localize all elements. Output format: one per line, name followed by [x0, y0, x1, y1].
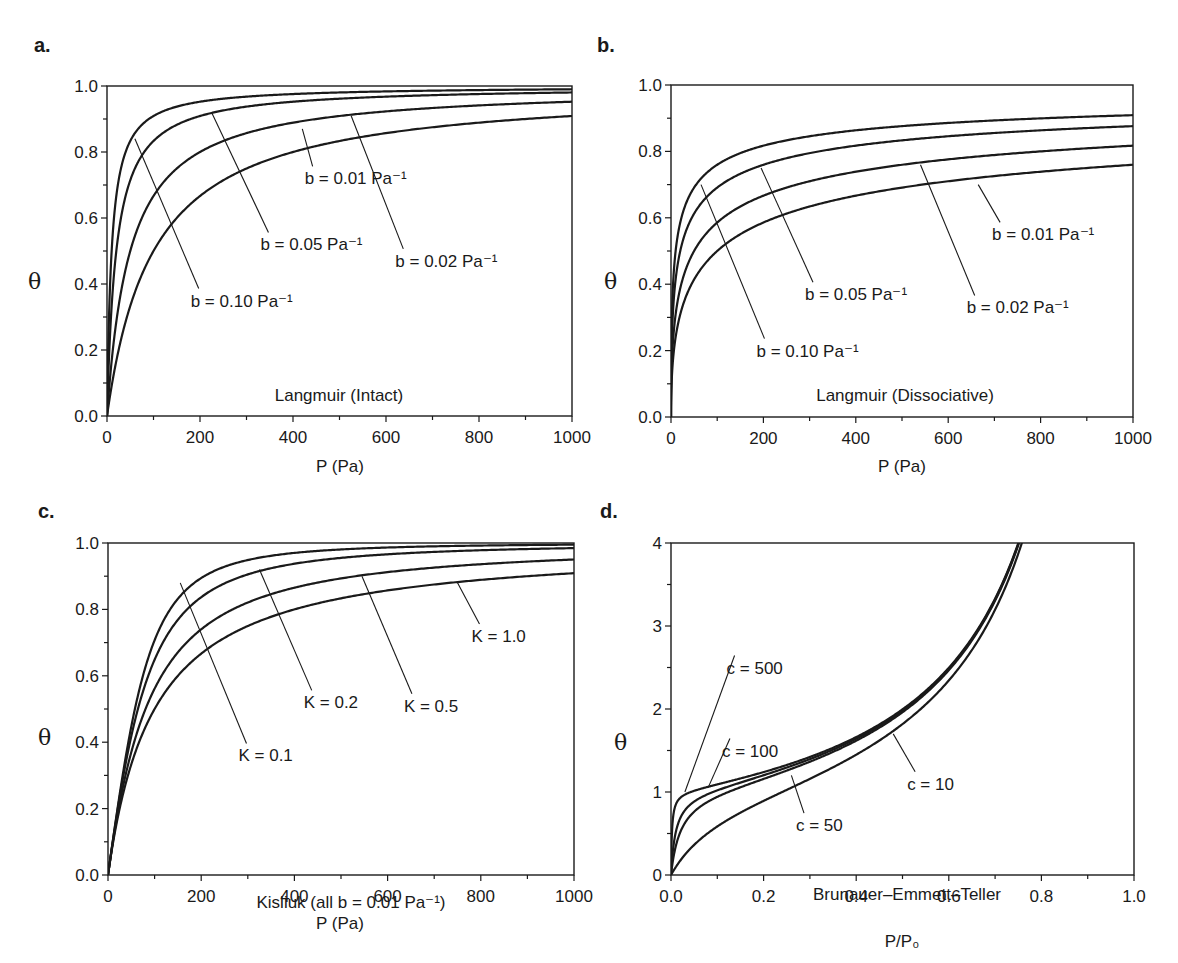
y-tick-label: 0.0 — [75, 866, 99, 885]
series-label: c = 50 — [796, 816, 843, 835]
series-label: K = 0.2 — [304, 693, 358, 712]
leader-line — [791, 775, 804, 813]
series-label: b = 0.01 Pa⁻¹ — [305, 169, 407, 188]
leader-line — [362, 576, 412, 693]
series-label: K = 0.5 — [404, 697, 458, 716]
series-label: b = 0.10 Pa⁻¹ — [756, 342, 858, 361]
y-tick-label: 0.0 — [638, 408, 662, 427]
leader-line — [893, 734, 915, 772]
panel-letter-a: a. — [34, 34, 51, 56]
y-tick-label: 0.4 — [74, 275, 98, 294]
plot-frame — [671, 85, 1133, 417]
y-tick-label: 0.2 — [74, 341, 98, 360]
x-axis-title-c: P (Pa) — [316, 914, 364, 933]
series-label: b = 0.10 Pa⁻¹ — [191, 292, 293, 311]
series-label: b = 0.02 Pa⁻¹ — [967, 298, 1069, 317]
series-line-b-0-01-pa- — [107, 116, 572, 416]
x-tick-label: 400 — [842, 429, 870, 448]
panel-letter-d: d. — [600, 500, 618, 522]
x-axis-title-a: P (Pa) — [316, 457, 364, 476]
series-line-b-0-02-pa- — [107, 102, 572, 416]
y-axis-title-d: θ — [614, 730, 627, 755]
y-tick-label: 0.4 — [75, 733, 99, 752]
series-label: c = 10 — [907, 775, 954, 794]
x-tick-label: 0 — [102, 428, 111, 447]
x-tick-label: 200 — [187, 887, 215, 906]
series-label: b = 0.05 Pa⁻¹ — [260, 235, 362, 254]
adsorption-isotherms-figure: a. 020040060080010000.00.20.40.60.81.0b … — [0, 0, 1178, 963]
series-line-b-0-10-pa- — [671, 115, 1133, 417]
y-tick-label: 0 — [653, 866, 662, 885]
y-tick-label: 0.8 — [74, 143, 98, 162]
y-tick-label: 1.0 — [638, 76, 662, 95]
y-tick-label: 0.4 — [638, 275, 662, 294]
y-axis-title-b: θ — [604, 269, 617, 294]
leader-line — [920, 165, 974, 296]
series-label: b = 0.05 Pa⁻¹ — [805, 285, 907, 304]
x-tick-label: 0 — [103, 887, 112, 906]
y-tick-label: 0.6 — [638, 209, 662, 228]
x-tick-label: 600 — [372, 428, 400, 447]
x-tick-label: 800 — [1026, 429, 1054, 448]
x-tick-label: 0 — [666, 429, 675, 448]
panel-letter-c: c. — [38, 500, 55, 522]
series-label: c = 500 — [727, 659, 783, 678]
panel-title-a: Langmuir (Intact) — [275, 386, 404, 405]
curves-b — [671, 115, 1133, 417]
leader-line — [708, 739, 730, 788]
panel-title-d: Brunauer–Emmett–Teller — [813, 885, 1001, 904]
series-label: K = 1.0 — [471, 627, 525, 646]
series-line-k-0-5 — [108, 560, 574, 876]
plot-area-d: 0.00.20.40.60.81.001234c = 500c = 100c =… — [653, 529, 1146, 906]
x-tick-label: 1000 — [553, 428, 591, 447]
y-tick-label: 0.2 — [638, 342, 662, 361]
panel-a: a. 020040060080010000.00.20.40.60.81.0b … — [28, 34, 591, 476]
leader-line — [259, 570, 311, 691]
series-label: b = 0.01 Pa⁻¹ — [992, 225, 1094, 244]
panel-title-c: Kisliuk (all b = 0.01 Pa⁻¹) — [257, 893, 446, 912]
x-tick-label: 200 — [186, 428, 214, 447]
y-tick-label: 0.2 — [75, 800, 99, 819]
y-axis-title-c: θ — [38, 725, 51, 750]
x-tick-label: 1.0 — [1122, 887, 1146, 906]
y-tick-label: 1.0 — [75, 534, 99, 553]
x-tick-label: 600 — [934, 429, 962, 448]
leader-line — [701, 185, 764, 339]
y-axis-title-a: θ — [28, 269, 41, 294]
x-tick-label: 1000 — [555, 887, 593, 906]
y-tick-label: 0.6 — [75, 667, 99, 686]
leader-line — [685, 656, 735, 793]
panel-b: b. 020040060080010000.00.20.40.60.81.0b … — [597, 34, 1152, 476]
panel-c: c. 020040060080010000.00.20.40.60.81.0K … — [38, 500, 593, 933]
x-tick-label: 0.0 — [659, 887, 683, 906]
series-label: K = 0.1 — [238, 746, 292, 765]
y-tick-label: 0.8 — [638, 142, 662, 161]
x-tick-label: 0.2 — [752, 887, 776, 906]
leader-line — [978, 185, 1000, 223]
x-axis-title-b: P (Pa) — [878, 457, 926, 476]
series-label: b = 0.02 Pa⁻¹ — [395, 252, 497, 271]
y-tick-label: 1.0 — [74, 77, 98, 96]
y-tick-label: 4 — [653, 534, 662, 553]
series-line-c-10 — [671, 540, 1023, 875]
panel-d: d. 0.00.20.40.60.81.001234c = 500c = 100… — [600, 500, 1146, 951]
y-tick-label: 0.6 — [74, 209, 98, 228]
x-tick-label: 800 — [467, 887, 495, 906]
series-label: c = 100 — [722, 742, 778, 761]
plot-area-c: 020040060080010000.00.20.40.60.81.0K = 1… — [75, 534, 593, 906]
panel-letter-b: b. — [597, 34, 615, 56]
y-tick-label: 0.8 — [75, 600, 99, 619]
x-tick-label: 400 — [279, 428, 307, 447]
panel-title-b: Langmuir (Dissociative) — [816, 386, 994, 405]
x-tick-label: 200 — [749, 429, 777, 448]
leader-line — [458, 583, 480, 624]
curves-d — [671, 529, 1023, 875]
y-tick-label: 0.0 — [74, 407, 98, 426]
x-axis-title-d: P/P₀ — [885, 932, 919, 951]
x-tick-label: 800 — [465, 428, 493, 447]
y-tick-label: 2 — [653, 700, 662, 719]
x-tick-label: 0.8 — [1030, 887, 1054, 906]
y-tick-label: 3 — [653, 617, 662, 636]
x-tick-label: 1000 — [1114, 429, 1152, 448]
y-tick-label: 1 — [653, 783, 662, 802]
